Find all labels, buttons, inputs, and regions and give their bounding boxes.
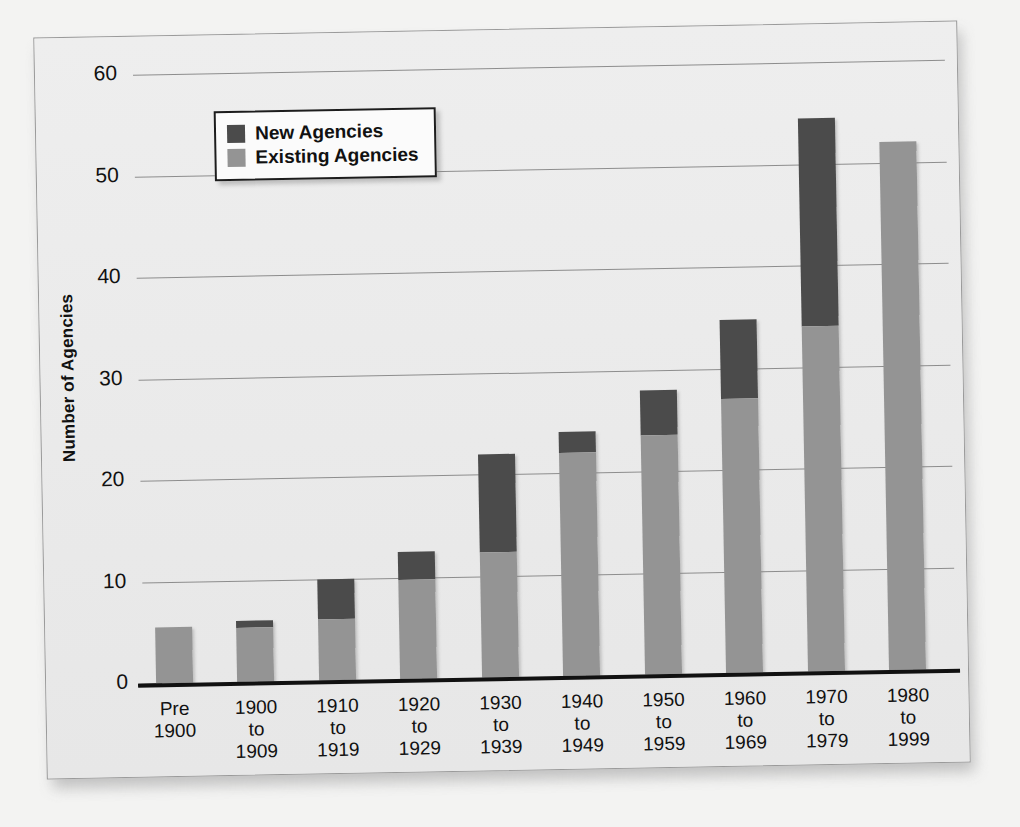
bar-segment-new-agencies [559,432,596,453]
x-category-line: 1900 [132,719,218,743]
y-tick-label-0: 0 [84,670,128,695]
x-category-line: 1979 [784,729,870,753]
x-category-line: 1959 [621,732,707,756]
bar-segment-existing-agencies [236,627,274,681]
chart-plot-area: Number of Agencies 0102030405060 Pre1900… [34,22,969,779]
x-category-label-2: 1910to1919 [294,694,381,762]
y-tick-10: 10 [74,568,126,569]
chart-legend: New AgenciesExisting Agencies [214,107,437,181]
x-category-label-4: 1930to1939 [457,691,544,759]
bar-segment-existing-agencies [879,142,926,670]
y-tick-label-30: 30 [78,365,122,390]
y-tick-label-50: 50 [75,162,119,187]
x-category-line: 1919 [295,738,381,762]
x-category-line: to [621,710,707,734]
y-tick-label-40: 40 [76,264,120,289]
bar-segment-existing-agencies [155,627,193,683]
x-category-line: 1939 [458,735,544,759]
x-category-label-6: 1950to1959 [620,688,707,756]
x-category-line: 1960 [702,687,788,711]
x-category-label-8: 1970to1979 [783,685,870,753]
x-category-label-3: 1920to1929 [376,693,463,761]
x-category-line: to [539,712,625,736]
bar-segment-existing-agencies [721,398,763,673]
x-category-label-5: 1940to1949 [539,690,626,758]
legend-label: Existing Agencies [255,142,418,169]
bar-segment-new-agencies [639,390,677,436]
scanned-page-background: Number of Agencies 0102030405060 Pre1900… [0,0,1020,827]
x-category-line: to [702,709,788,733]
legend-swatch-icon [227,125,245,143]
bar-pre-1900 [155,627,193,683]
x-category-line: 1910 [294,694,380,718]
bar-1900-to-1909 [236,620,274,682]
bar-segment-existing-agencies [479,552,518,678]
x-category-label-0: Pre1900 [131,697,218,743]
x-category-line: Pre [131,697,217,721]
bar-1950-to-1959 [639,390,681,675]
bar-segment-existing-agencies [801,326,844,672]
bar-1910-to-1919 [317,578,356,680]
y-tick-60: 60 [65,61,117,62]
y-axis-title: Number of Agencies [56,258,80,498]
x-category-line: 1969 [703,731,789,755]
y-tick-40: 40 [68,264,120,265]
x-category-line: 1900 [213,696,299,720]
y-tick-label-20: 20 [80,467,124,492]
x-category-line: 1940 [539,690,625,714]
y-tick-20: 20 [72,467,124,468]
y-tick-0: 0 [76,670,128,671]
gridline-60 [133,60,945,76]
bar-segment-new-agencies [398,551,435,579]
x-category-line: 1909 [214,740,300,764]
legend-swatch-icon [227,148,245,166]
bar-segment-existing-agencies [317,619,355,681]
bar-1970-to-1979 [797,118,844,672]
legend-item-new-agencies: New Agencies [227,118,418,145]
y-tick-label-10: 10 [82,568,126,593]
x-category-label-1: 1900to1909 [213,696,300,764]
x-axis-category-labels: Pre19001900to19091910to19191920to1929193… [34,22,956,39]
bar-1980-to-1999 [879,142,926,670]
x-category-line: to [458,713,544,737]
x-category-line: to [213,718,299,742]
y-tick-30: 30 [70,365,122,366]
x-category-line: to [784,707,870,731]
bar-segment-existing-agencies [559,452,600,676]
x-category-line: to [376,715,462,739]
sheet-paper-surface: Number of Agencies 0102030405060 Pre1900… [34,22,969,779]
x-category-line: 1949 [540,734,626,758]
bar-segment-new-agencies [797,118,838,327]
x-category-label-9: 1980to1999 [865,684,952,752]
bar-1920-to-1929 [398,551,437,679]
x-category-line: 1980 [865,684,951,708]
bar-segment-new-agencies [720,319,758,399]
x-category-line: 1999 [866,728,952,752]
x-category-line: 1929 [377,737,463,761]
x-category-line: 1920 [376,693,462,717]
bar-1960-to-1969 [720,319,763,673]
legend-item-existing-agencies: Existing Agencies [227,142,418,169]
bar-1930-to-1939 [477,453,518,677]
x-category-line: to [865,706,951,730]
x-category-line: to [295,716,381,740]
x-category-line: 1930 [457,691,543,715]
x-category-label-7: 1960to1969 [702,687,789,755]
y-tick-label-60: 60 [73,61,117,86]
bar-1940-to-1949 [559,432,600,676]
legend-label: New Agencies [255,119,384,145]
y-tick-50: 50 [67,162,119,163]
scanned-sheet: Number of Agencies 0102030405060 Pre1900… [33,21,970,780]
y-axis: 0102030405060 [34,22,956,39]
bar-series-group [34,22,956,39]
bar-segment-new-agencies [477,453,516,552]
bar-segment-existing-agencies [640,435,681,674]
bar-segment-new-agencies [317,578,355,619]
x-category-line: 1970 [783,685,869,709]
x-category-line: 1950 [620,688,706,712]
bar-segment-existing-agencies [398,579,437,679]
